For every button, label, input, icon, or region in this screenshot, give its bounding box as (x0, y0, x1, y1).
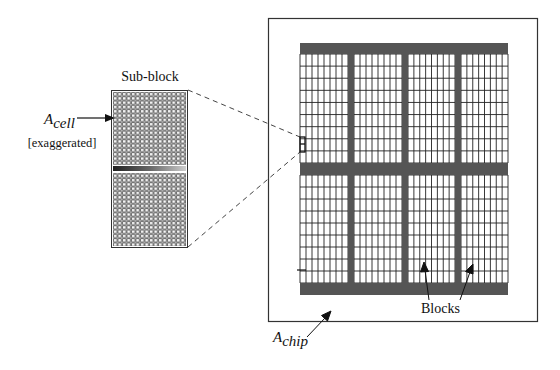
vertical-bus-2 (402, 43, 408, 295)
a-cell-arrow (77, 114, 115, 122)
a-chip-arrow (307, 311, 331, 337)
chip-grid (300, 43, 508, 295)
blocks-label: Blocks (421, 301, 460, 316)
vertical-bus-1 (348, 43, 354, 295)
sub-block-marker (300, 137, 305, 152)
sub-block (112, 91, 188, 248)
exaggerated-note: [exaggerated] (28, 136, 97, 150)
chip-diagram: Sub-block Acell [exaggerated] Blocks Ach… (0, 0, 560, 370)
sub-block-top-cells (113, 92, 186, 165)
sub-block-bus (113, 166, 186, 171)
zoom-lines (188, 90, 300, 247)
sub-block-bottom-cells (113, 173, 186, 246)
a-cell-label: Acell (43, 111, 75, 131)
a-chip-label: Achip (272, 329, 308, 349)
vertical-bus-3 (455, 43, 461, 295)
sub-block-label: Sub-block (121, 69, 179, 84)
